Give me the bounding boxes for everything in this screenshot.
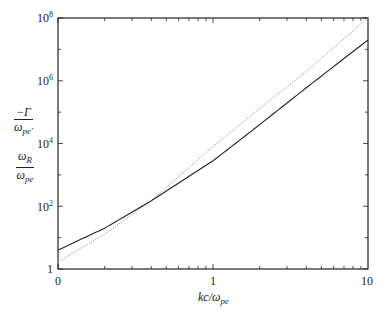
y-axis-label-omega: ωR ωpe — [16, 150, 34, 187]
x-tick-10: 10 — [361, 274, 373, 289]
x-tick-0: 0 — [55, 274, 61, 289]
x-axis-label: kc/ωpe — [198, 290, 229, 306]
y-tick-1e8: 108 — [37, 10, 53, 26]
plot-frame — [58, 18, 368, 269]
x-tick-1: 1 — [210, 274, 216, 289]
y-tick-1e4: 104 — [37, 136, 53, 152]
y-axis-label-gamma: −Γ ωpe' — [14, 106, 33, 138]
dotted-curve — [58, 18, 368, 262]
solid-curve — [58, 40, 368, 250]
y-tick-1e6: 106 — [37, 73, 53, 89]
y-tick-1: 1 — [47, 262, 53, 277]
y-tick-1e2: 102 — [37, 199, 53, 215]
plot-area — [0, 0, 381, 313]
axis-ticks — [58, 18, 368, 269]
